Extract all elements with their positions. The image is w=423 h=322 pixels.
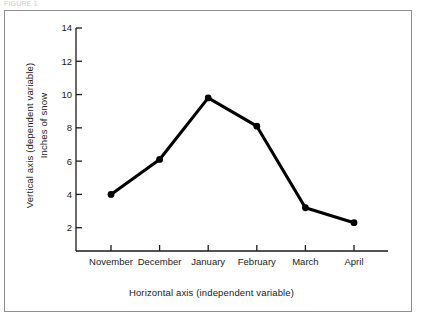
x-axis-tick-label: January [191,256,225,267]
x-axis-tick-label: April [344,256,363,267]
data-line-series [111,98,354,223]
y-axis-tick-label: 8 [67,122,72,133]
y-axis-tick-label: 6 [67,156,72,167]
x-axis-tick-label: December [138,256,182,267]
data-point-marker [253,123,260,130]
y-axis-tick-label: 14 [61,22,72,33]
y-ticks-group: 2468101214 [61,22,82,233]
data-point-marker [351,219,358,226]
horizontal-axis-title: Horizontal axis (independent variable) [0,287,423,298]
data-markers-group [108,95,358,227]
y-axis-tick-label: 12 [61,56,72,67]
y-axis-tick-label: 4 [67,189,72,200]
data-point-marker [156,156,163,163]
y-axis-tick-label: 2 [67,222,72,233]
x-axis-tick-label: February [238,256,276,267]
data-point-marker [108,191,115,198]
x-ticks-group: NovemberDecemberJanuaryFebruaryMarchApri… [89,245,363,267]
figure-root: FIGURE 1 Vertical axis (dependent variab… [0,0,423,322]
x-axis-tick-label: November [89,256,133,267]
data-point-marker [205,95,212,102]
x-axis-tick-label: March [292,256,318,267]
data-point-marker [302,204,309,211]
line-chart-plot: 2468101214 NovemberDecemberJanuaryFebrua… [0,0,423,322]
y-axis-tick-label: 10 [61,89,72,100]
